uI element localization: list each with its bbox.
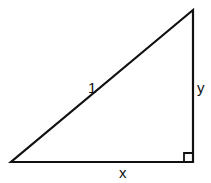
right-angle-marker (184, 153, 193, 162)
vertical-leg-label: y (197, 79, 205, 96)
horizontal-leg-label: x (119, 164, 127, 181)
hypotenuse-label: 1 (88, 79, 96, 96)
right-triangle-diagram: 1 y x (0, 0, 211, 183)
triangle-outline (11, 10, 193, 162)
